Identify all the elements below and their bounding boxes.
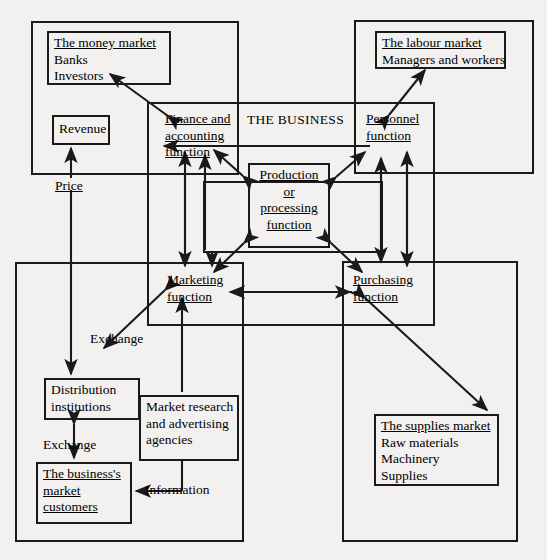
distribution-line-1: Distribution xyxy=(51,382,133,399)
distribution-line-2: institutions xyxy=(51,399,133,416)
production-line-2: or xyxy=(255,184,323,201)
business-environment-diagram: The money market Banks Investors Revenue… xyxy=(0,0,547,560)
supplies-market-line-1: Raw materials xyxy=(381,435,492,452)
labour-market-box: The labour market Managers and workers xyxy=(375,31,506,69)
market-research-line-3: agencies xyxy=(146,432,232,449)
revenue-box: Revenue xyxy=(52,115,110,145)
supplies-market-box: The supplies market Raw materials Machin… xyxy=(374,414,499,486)
business-customers-line-2: customers xyxy=(43,499,125,516)
supplies-market-heading: The supplies market xyxy=(381,418,492,435)
arrow-purchasing-supplies xyxy=(365,298,487,410)
finance-and-accounting-function: Finance and accounting function xyxy=(165,111,231,161)
supplies-market-line-3: Supplies xyxy=(381,468,492,485)
business-customers-line-1: market xyxy=(43,483,125,500)
purchasing-line-1: Purchasing xyxy=(353,272,413,289)
the-business-title: THE BUSINESS xyxy=(247,112,344,128)
distribution-institutions-box: Distribution institutions xyxy=(44,378,140,420)
market-research-box: Market research and advertising agencies xyxy=(139,395,239,461)
arrow-labourmarket-personnel xyxy=(389,70,425,115)
business-customers-heading: The business's xyxy=(43,466,125,483)
personnel-line-2: function xyxy=(366,128,419,145)
market-research-line-2: and advertising xyxy=(146,416,232,433)
money-market-box: The money market Banks Investors xyxy=(47,31,171,85)
supplies-market-line-2: Machinery xyxy=(381,451,492,468)
labour-market-heading: The labour market xyxy=(382,35,499,52)
production-line-3: processing xyxy=(255,200,323,217)
finance-line-2: accounting xyxy=(165,128,231,145)
arrow-production-marketing xyxy=(214,243,244,272)
marketing-line-2: function xyxy=(167,289,223,306)
arrow-production-purchasing xyxy=(331,243,362,272)
purchasing-function: Purchasing function xyxy=(353,272,413,305)
production-line-1: Production xyxy=(255,167,323,184)
finance-line-3: function xyxy=(165,144,231,161)
personnel-line-1: Personnel xyxy=(366,111,419,128)
information-label: Information xyxy=(145,482,209,498)
revenue-label: Revenue xyxy=(59,121,103,138)
price-label: Price xyxy=(55,178,83,194)
market-research-line-1: Market research xyxy=(146,399,232,416)
marketing-line-1: Marketing xyxy=(167,272,223,289)
purchasing-line-2: function xyxy=(353,289,413,306)
finance-line-1: Finance and xyxy=(165,111,231,128)
exchange-label-top: Exchange xyxy=(90,331,143,347)
labour-market-line-1: Managers and workers xyxy=(382,52,499,69)
money-market-heading: The money market xyxy=(54,35,164,52)
production-function-box: Production or processing function xyxy=(248,163,330,248)
production-line-4: function xyxy=(255,217,323,234)
money-market-line-1: Banks xyxy=(54,52,164,69)
business-customers-box: The business's market customers xyxy=(36,462,132,524)
money-market-line-2: Investors xyxy=(54,68,164,85)
exchange-label-bottom: Exchange xyxy=(43,437,96,453)
marketing-function: Marketing function xyxy=(167,272,223,305)
personnel-function: Personnel function xyxy=(366,111,419,144)
